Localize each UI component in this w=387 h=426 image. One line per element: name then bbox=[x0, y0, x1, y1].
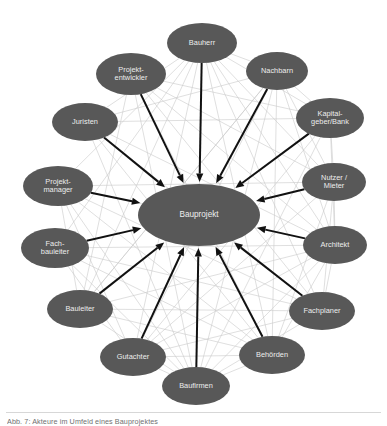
node-ellipse-bauherr[interactable] bbox=[167, 23, 237, 63]
node-architekt[interactable]: Architekt bbox=[303, 226, 367, 264]
web-link-bauleiter-architekt bbox=[110, 252, 305, 301]
web-link-juristen-baufirmen bbox=[93, 140, 188, 367]
node-baufirmen[interactable]: Baufirmen bbox=[162, 367, 230, 405]
node-ellipse-juristen[interactable] bbox=[52, 103, 118, 141]
node-ellipse-fachplaner[interactable] bbox=[289, 292, 355, 330]
web-link-bauleiter-fachplaner bbox=[113, 309, 289, 310]
actor-network-diagram: BauprojektBauherrNachbarnKapital-geber/B… bbox=[0, 0, 387, 405]
node-bauherr[interactable]: Bauherr bbox=[167, 23, 237, 63]
arrow-nutzer_mieter-to-bauprojekt bbox=[256, 189, 304, 202]
node-fachplaner[interactable]: Fachplaner bbox=[289, 292, 355, 330]
web-link-gutachter-behoerden bbox=[166, 355, 239, 356]
node-ellipse-nutzer_mieter[interactable] bbox=[302, 163, 366, 201]
node-ellipse-projektmanager[interactable] bbox=[23, 166, 93, 206]
node-bauleiter[interactable]: Bauleiter bbox=[47, 290, 113, 328]
figure-container: BauprojektBauherrNachbarnKapital-geber/B… bbox=[0, 0, 387, 426]
node-behoerden[interactable]: Behörden bbox=[239, 336, 305, 374]
node-kapitalgeber[interactable]: Kapital-geber/Bank bbox=[296, 98, 364, 138]
node-ellipse-bauleiter[interactable] bbox=[47, 290, 113, 328]
node-projektentwickler[interactable]: Projekt-entwickler bbox=[96, 53, 166, 95]
node-ellipse-projektentwickler[interactable] bbox=[96, 53, 166, 95]
node-bauprojekt[interactable]: Bauprojekt bbox=[138, 184, 260, 246]
node-juristen[interactable]: Juristen bbox=[52, 103, 118, 141]
caption-divider bbox=[6, 412, 381, 413]
web-link-fachplaner-architekt bbox=[326, 264, 332, 292]
node-ellipse-bauprojekt[interactable] bbox=[138, 184, 260, 246]
node-nutzer_mieter[interactable]: Nutzer /Mieter bbox=[302, 163, 366, 201]
web-link-juristen-kapitalgeber bbox=[118, 119, 296, 122]
node-ellipse-gutachter[interactable] bbox=[100, 338, 166, 376]
node-ellipse-kapitalgeber[interactable] bbox=[296, 98, 364, 138]
web-link-bauherr-nachbarn bbox=[231, 54, 250, 61]
arrow-gutachter-to-bauprojekt bbox=[142, 247, 185, 339]
arrow-fachbauleiter-to-bauprojekt bbox=[87, 227, 142, 241]
node-ellipse-architekt[interactable] bbox=[303, 226, 367, 264]
node-nachbarn[interactable]: Nachbarn bbox=[246, 52, 308, 90]
node-projektmanager[interactable]: Projekt-manager bbox=[23, 166, 93, 206]
figure-caption: Abb. 7: Akteure im Umfeld eines Bauproje… bbox=[7, 416, 383, 426]
node-ellipse-fachbauleiter[interactable] bbox=[21, 228, 89, 268]
node-fachbauleiter[interactable]: Fach-bauleiter bbox=[21, 228, 89, 268]
arrow-projektentwickler-to-bauprojekt bbox=[141, 94, 184, 183]
arrow-juristen-to-bauprojekt bbox=[104, 138, 165, 188]
arrow-bauherr-to-bauprojekt bbox=[196, 63, 203, 182]
node-ellipse-behoerden[interactable] bbox=[239, 336, 305, 374]
node-gutachter[interactable]: Gutachter bbox=[100, 338, 166, 376]
web-link-bauherr-bauleiter bbox=[88, 62, 193, 290]
web-link-baufirmen-behoerden bbox=[223, 366, 245, 375]
node-ellipse-baufirmen[interactable] bbox=[162, 367, 230, 405]
web-link-gutachter-baufirmen bbox=[159, 369, 170, 374]
web-link-behoerden-nachbarn bbox=[272, 90, 276, 336]
web-link-kapitalgeber-nachbarn bbox=[295, 87, 312, 102]
node-ellipse-nachbarn[interactable] bbox=[246, 52, 308, 90]
